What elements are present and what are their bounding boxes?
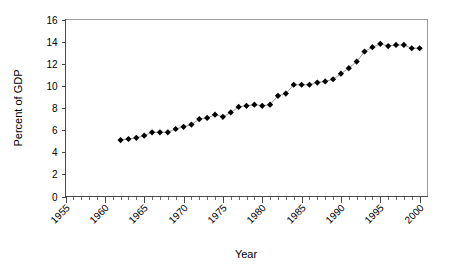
data-point-marker — [377, 41, 383, 47]
x-tick-label: 1985 — [284, 202, 308, 226]
data-series-percent-of-gdp — [117, 41, 422, 143]
data-point-marker — [322, 78, 328, 84]
data-point-marker — [188, 121, 194, 127]
x-tick-label: 1990 — [323, 202, 347, 226]
y-tick-label: 0 — [52, 192, 58, 203]
data-point-marker — [236, 104, 242, 110]
data-point-marker — [125, 136, 131, 142]
y-tick-label: 8 — [52, 103, 58, 114]
x-axis-tick-labels: 1955196019651970197519801985199019952000 — [48, 202, 426, 226]
data-point-marker — [259, 103, 265, 109]
data-point-marker — [298, 82, 304, 88]
y-tick-label: 10 — [46, 81, 58, 92]
data-point-marker — [165, 129, 171, 135]
x-tick-label: 1970 — [166, 202, 190, 226]
data-point-marker — [228, 109, 234, 115]
x-tick-label: 1980 — [244, 202, 268, 226]
series-line — [121, 44, 420, 140]
data-point-marker — [338, 71, 344, 77]
chart-figure: 0246810121416 19551960196519701975198019… — [0, 0, 455, 266]
data-point-marker — [173, 126, 179, 132]
x-tick-label: 1965 — [126, 202, 150, 226]
data-point-marker — [393, 42, 399, 48]
data-point-marker — [243, 103, 249, 109]
data-point-marker — [133, 135, 139, 141]
data-point-marker — [306, 82, 312, 88]
x-tick-label: 1975 — [205, 202, 229, 226]
data-point-marker — [149, 129, 155, 135]
data-point-marker — [180, 124, 186, 130]
data-point-marker — [409, 45, 415, 51]
x-axis: 1955196019651970197519801985199019952000 — [48, 197, 428, 226]
y-axis: 0246810121416 — [46, 15, 65, 203]
y-tick-label: 2 — [52, 169, 58, 180]
x-axis-major-ticks — [67, 197, 421, 203]
data-point-marker — [385, 43, 391, 49]
data-point-marker — [220, 114, 226, 120]
x-axis-title: Year — [235, 248, 258, 260]
percent-of-gdp-line-chart: 0246810121416 19551960196519701975198019… — [0, 0, 455, 266]
y-tick-label: 6 — [52, 125, 58, 136]
x-tick-label: 2000 — [402, 202, 426, 226]
data-point-marker — [369, 44, 375, 50]
y-axis-tick-labels: 0246810121416 — [46, 15, 58, 203]
series-markers — [117, 41, 422, 143]
y-tick-label: 16 — [46, 15, 58, 26]
x-tick-label: 1955 — [48, 202, 72, 226]
data-point-marker — [314, 79, 320, 85]
data-point-marker — [157, 129, 163, 135]
data-point-marker — [417, 45, 423, 51]
data-point-marker — [204, 115, 210, 121]
x-tick-label: 1995 — [362, 202, 386, 226]
data-point-marker — [141, 133, 147, 139]
data-point-marker — [196, 116, 202, 122]
y-axis-title: Percent of GDP — [12, 69, 24, 146]
data-point-marker — [330, 76, 336, 82]
y-tick-label: 4 — [52, 147, 58, 158]
data-point-marker — [401, 42, 407, 48]
y-tick-label: 12 — [46, 59, 58, 70]
x-tick-label: 1960 — [87, 202, 111, 226]
data-point-marker — [212, 112, 218, 118]
data-point-marker — [117, 137, 123, 143]
data-point-marker — [251, 102, 257, 108]
y-tick-label: 14 — [46, 37, 58, 48]
y-axis-ticks — [62, 21, 66, 198]
